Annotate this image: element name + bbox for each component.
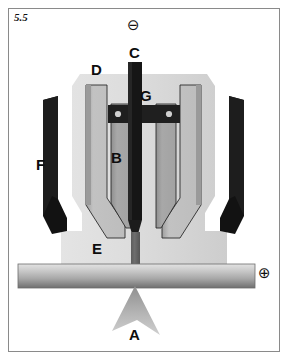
- outer-shield-right: [220, 96, 244, 234]
- callout-label-b: B: [111, 150, 122, 165]
- figure-container: 5.5: [0, 0, 291, 361]
- negative-polarity-icon: ⊖: [127, 18, 140, 33]
- callout-label-c: C: [129, 45, 140, 60]
- callout-label-e: E: [92, 241, 102, 256]
- callout-label-f: F: [36, 157, 45, 172]
- workpiece-bar: [18, 264, 255, 288]
- callout-label-a: A: [129, 327, 140, 342]
- callout-label-g: G: [140, 88, 152, 103]
- outer-shield-left: [43, 96, 67, 234]
- positive-polarity-icon: ⊕: [258, 266, 271, 281]
- callout-label-d: D: [91, 62, 102, 77]
- plasma-torch-diagram: [0, 0, 291, 361]
- insulator-seal-bar: [108, 105, 180, 123]
- fastener-left-icon: [115, 111, 121, 117]
- fastener-right-icon: [166, 111, 172, 117]
